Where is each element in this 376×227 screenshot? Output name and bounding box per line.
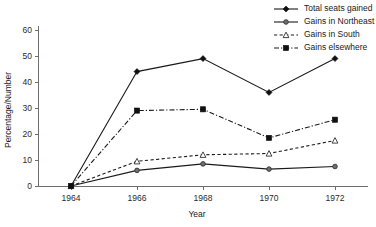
line-chart: 0102030405060 19641966196819701972 Total… <box>0 0 376 227</box>
data-point-marker <box>284 20 289 25</box>
x-axis: 19641966196819701972 <box>38 186 368 203</box>
data-point-marker <box>267 167 272 172</box>
data-point-marker <box>135 168 140 173</box>
data-point-marker <box>68 183 73 188</box>
data-point-marker <box>134 158 140 164</box>
data-point-marker <box>266 135 271 140</box>
y-tick-label: 40 <box>23 77 33 87</box>
legend-item: Gains in South <box>274 29 360 39</box>
data-point-marker <box>266 151 272 157</box>
legend-item: Total seats gained <box>274 3 373 13</box>
data-point-marker <box>134 108 139 113</box>
data-point-marker <box>283 6 289 12</box>
data-point-marker <box>332 56 338 62</box>
data-series-group <box>68 56 338 189</box>
x-tick-label: 1964 <box>62 193 81 203</box>
legend-label: Gains elsewhere <box>304 42 368 52</box>
y-tick-label: 50 <box>23 51 33 61</box>
data-point-marker <box>201 162 206 167</box>
y-tick-label: 20 <box>23 129 33 139</box>
data-point-marker <box>332 138 338 144</box>
data-series <box>69 162 338 189</box>
data-point-marker <box>200 107 205 112</box>
x-tick-label: 1970 <box>260 193 279 203</box>
y-tick-label: 30 <box>23 103 33 113</box>
legend-label: Gains in Northeast <box>304 16 375 26</box>
data-point-marker <box>200 56 206 62</box>
y-tick-label: 0 <box>27 181 32 191</box>
x-axis-title: Year <box>188 209 205 219</box>
data-point-marker <box>134 69 140 75</box>
y-tick-label: 60 <box>23 25 33 35</box>
chart-legend: Total seats gainedGains in NortheastGain… <box>274 3 375 52</box>
y-axis-title: Percentage/Number <box>3 72 13 148</box>
x-tick-label: 1966 <box>128 193 147 203</box>
data-point-marker <box>332 117 337 122</box>
legend-item: Gains elsewhere <box>274 42 368 52</box>
data-point-marker <box>266 89 272 95</box>
y-tick-label: 10 <box>23 155 33 165</box>
data-point-marker <box>333 164 338 169</box>
x-tick-label: 1968 <box>194 193 213 203</box>
legend-item: Gains in Northeast <box>274 16 375 26</box>
legend-label: Total seats gained <box>304 3 373 13</box>
y-axis: 0102030405060 <box>23 25 38 191</box>
x-tick-label: 1972 <box>326 193 345 203</box>
chart-canvas: 0102030405060 19641966196819701972 Total… <box>0 0 376 227</box>
data-point-marker <box>283 45 288 50</box>
legend-label: Gains in South <box>304 29 360 39</box>
data-series <box>68 56 338 189</box>
